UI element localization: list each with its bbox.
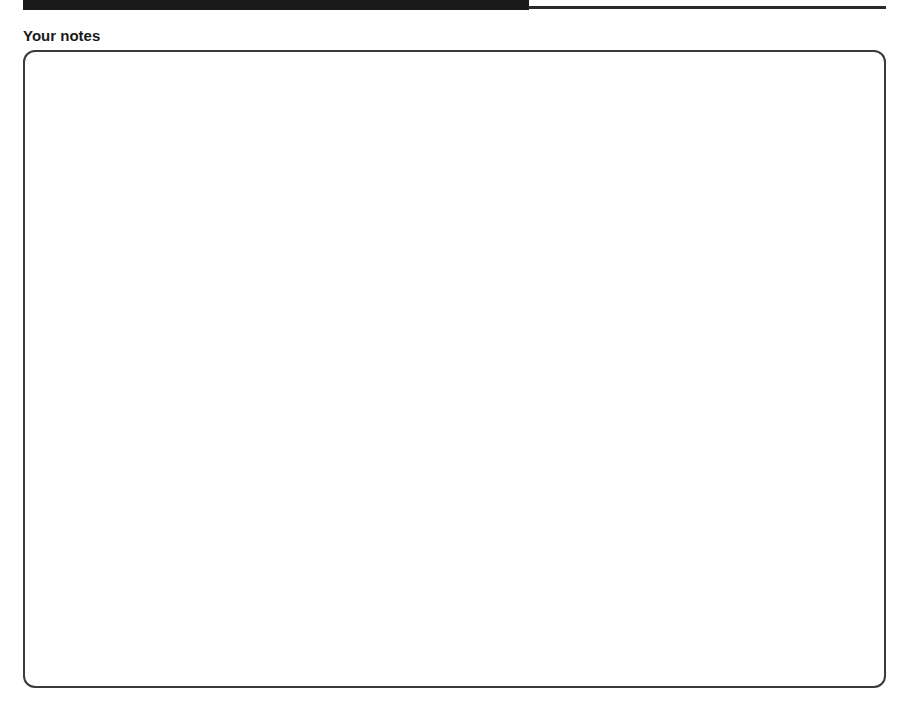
notes-heading: Your notes [23, 27, 100, 44]
top-divider-rule [528, 6, 886, 9]
top-dark-banner [23, 0, 529, 10]
notes-area[interactable] [23, 50, 886, 688]
